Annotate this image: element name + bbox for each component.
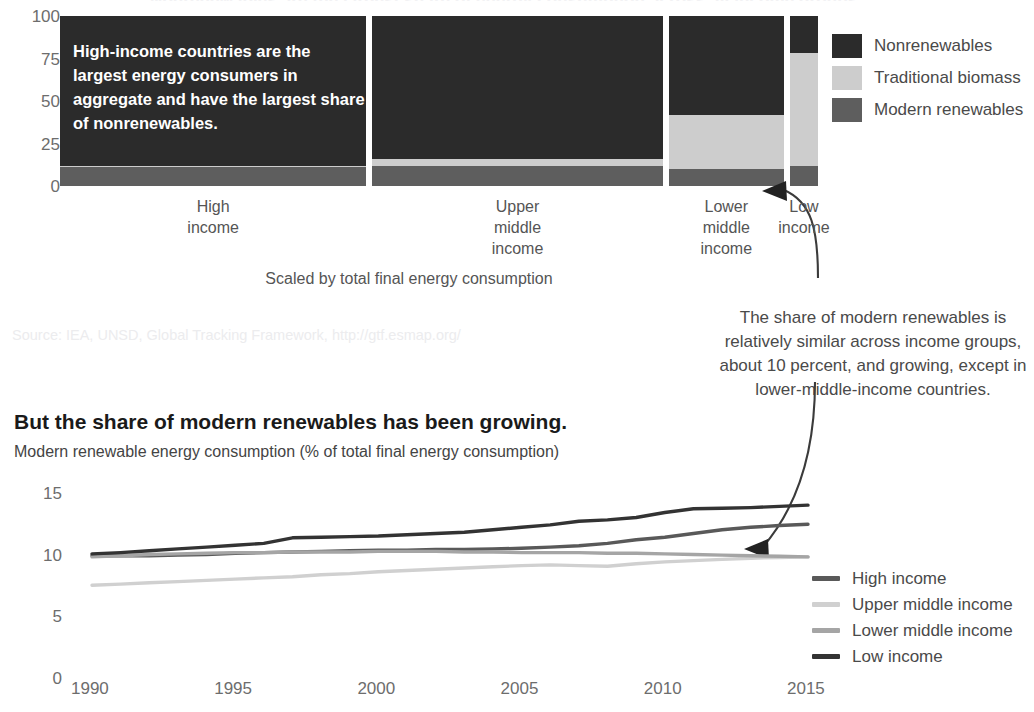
line-chart-legend: High incomeUpper middle incomeLower midd… (812, 566, 1034, 670)
line-legend-item[interactable]: Upper middle income (812, 592, 1034, 618)
mekko-segment[interactable] (669, 169, 784, 186)
mekko-category-label: Lowermiddleincome (679, 196, 774, 259)
mekko-segment[interactable] (372, 16, 662, 159)
mekko-legend-label: Modern renewables (874, 98, 1023, 122)
mekko-segment[interactable] (372, 166, 662, 186)
mekko-legend-item[interactable]: Modern renewables (832, 96, 1032, 124)
mekko-segment[interactable] (669, 16, 784, 115)
line-y-axis: 151050 (20, 478, 62, 678)
mekko-category-label: Lowincome (764, 196, 844, 238)
mekko-segment[interactable] (790, 16, 818, 53)
mekko-segment[interactable] (60, 167, 366, 186)
line-series[interactable] (92, 557, 808, 585)
line-legend-item[interactable]: Low income (812, 644, 1034, 670)
mekko-y-axis: 1007550250 (14, 8, 60, 198)
line-x-tick: 2010 (644, 680, 682, 697)
legend-swatch-icon (832, 34, 862, 58)
mekko-y-tick: 25 (41, 136, 60, 153)
mekko-scaled-note: Scaled by total final energy consumption (0, 270, 818, 288)
legend-line-swatch-icon (812, 654, 840, 659)
mekko-legend-item[interactable]: Nonrenewables (832, 32, 1032, 60)
mekko-segment[interactable] (790, 166, 818, 186)
legend-line-swatch-icon (812, 576, 840, 581)
cutoff-page-headline: Nonrenewables are the largest share of e… (150, 0, 910, 1)
source-line: Source: IEA, UNSD, Global Tracking Frame… (12, 327, 461, 343)
line-x-axis: 199019952000200520102015 (60, 678, 820, 704)
mekko-y-tick: 0 (51, 178, 60, 195)
line-x-tick: 2005 (501, 680, 539, 697)
mekko-legend-label: Traditional biomass (874, 66, 1021, 90)
line-legend-label: Low income (852, 644, 943, 670)
mekko-legend-label: Nonrenewables (874, 34, 992, 58)
line-chart-subtitle: Modern renewable energy consumption (% o… (14, 443, 559, 461)
line-x-tick: 1990 (71, 680, 109, 697)
mekko-legend: NonrenewablesTraditional biomassModern r… (832, 32, 1032, 128)
line-legend-item[interactable]: High income (812, 566, 1034, 592)
mekko-category-label: Highincome (148, 196, 278, 238)
mekko-bar[interactable] (669, 16, 784, 186)
line-legend-item[interactable]: Lower middle income (812, 618, 1034, 644)
line-x-tick: 1995 (214, 680, 252, 697)
mekko-callout-text: High-income countries are the largest en… (73, 40, 365, 136)
line-legend-label: High income (852, 566, 947, 592)
legend-swatch-icon (832, 66, 862, 90)
legend-line-swatch-icon (812, 602, 840, 607)
line-chart-plot-area (60, 478, 820, 678)
mekko-bar[interactable] (790, 16, 818, 186)
line-chart-title: But the share of modern renewables has b… (14, 410, 567, 434)
line-x-tick: 2000 (357, 680, 395, 697)
legend-line-swatch-icon (812, 628, 840, 633)
line-legend-label: Upper middle income (852, 592, 1013, 618)
line-legend-label: Lower middle income (852, 618, 1013, 644)
line-x-tick: 2015 (787, 680, 825, 697)
mekko-segment[interactable] (669, 115, 784, 169)
mekko-segment[interactable] (372, 159, 662, 166)
annotation-text: The share of modern renewables is relati… (712, 306, 1034, 403)
legend-swatch-icon (832, 98, 862, 122)
mekko-segment[interactable] (790, 53, 818, 165)
mekko-y-tick: 75 (41, 51, 60, 68)
mekko-legend-item[interactable]: Traditional biomass (832, 64, 1032, 92)
mekko-y-tick: 100 (32, 8, 60, 25)
mekko-y-tick: 50 (41, 93, 60, 110)
mekko-bar[interactable] (372, 16, 662, 186)
mekko-category-label: Uppermiddleincome (458, 196, 578, 259)
line-series[interactable] (92, 505, 808, 554)
